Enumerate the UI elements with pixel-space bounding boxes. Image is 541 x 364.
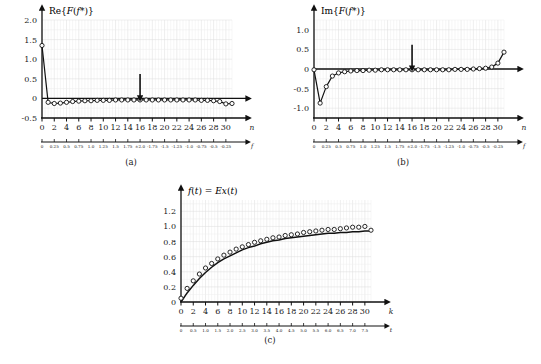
data-point-marker — [338, 227, 342, 231]
data-point-marker — [101, 98, 105, 102]
data-point-marker — [344, 226, 348, 230]
data-point-marker — [441, 68, 445, 72]
data-point-marker — [351, 225, 355, 229]
x-tick-label-secondary-a: -1.75 — [147, 144, 158, 149]
data-point-marker — [369, 228, 373, 232]
x-tick-label-primary-c: 20 — [298, 307, 308, 316]
panel-b: -1.0-0.500.51.0Im{F(f*)}0246810121416182… — [272, 2, 534, 174]
y-axis-title-c: f(t) = Ex(t) — [187, 186, 238, 196]
data-point-marker — [222, 253, 226, 257]
x-tick-label-secondary-b: -0.75 — [468, 144, 479, 149]
data-point-marker — [385, 68, 389, 72]
data-point-marker — [367, 68, 371, 72]
y-tick-label-b: 1.0 — [296, 26, 309, 35]
y-axis-title-a: Re{F(f*)} — [49, 6, 94, 16]
data-point-marker — [320, 228, 324, 232]
data-point-marker — [277, 235, 281, 239]
x-tick-label-primary-a: 2 — [52, 123, 57, 132]
data-point-marker — [46, 100, 50, 104]
x-tick-label-primary-c: 22 — [311, 307, 321, 316]
data-point-marker — [453, 67, 457, 71]
data-point-marker — [205, 98, 209, 102]
x-tick-label-primary-c: 14 — [262, 307, 272, 316]
x-tick-label-secondary-c: 7.0 — [349, 328, 356, 333]
data-point-marker — [187, 98, 191, 102]
grid-a — [42, 20, 232, 118]
x-axis-label-secondary-b: f — [522, 142, 527, 150]
x-tick-label-secondary-b: -1.25 — [444, 144, 455, 149]
x-tick-label-primary-c: 24 — [323, 307, 333, 316]
x-tick-label-primary-b: 8 — [360, 123, 365, 132]
data-point-marker — [324, 85, 328, 89]
x-tick-label-secondary-a: 0.75 — [74, 144, 84, 149]
x-tick-label-secondary-b: 0.25 — [322, 144, 332, 149]
data-point-marker — [230, 101, 234, 105]
x-tick-label-secondary-c: 0 — [180, 328, 183, 333]
data-point-marker — [83, 99, 87, 103]
data-point-marker — [126, 98, 130, 102]
x-tick-label-primary-b: 4 — [336, 123, 341, 132]
x-tick-label-primary-a: 12 — [110, 123, 120, 132]
x-tick-label-secondary-c: 3.0 — [251, 328, 258, 333]
data-point-marker — [289, 233, 293, 237]
data-point-marker — [191, 279, 195, 283]
x-tick-label-secondary-c: 0.5 — [190, 328, 197, 333]
y-tick-label-c: 0.6 — [163, 253, 176, 262]
x-tick-label-secondary-a: 0.5 — [63, 144, 70, 149]
x-tick-label-primary-b: 20 — [431, 123, 441, 132]
x-tick-label-primary-c: 8 — [227, 307, 232, 316]
x-tick-label-primary-b: 16 — [407, 123, 417, 132]
data-point-marker — [212, 99, 216, 103]
data-point-marker — [459, 67, 463, 71]
x-tick-label-primary-b: 22 — [444, 123, 454, 132]
data-point-marker — [357, 225, 361, 229]
y-tick-label-a: 1.5 — [24, 36, 37, 45]
data-point-marker — [179, 296, 183, 300]
chart-b-imaginary-part: -1.0-0.500.51.0Im{F(f*)}0246810121416182… — [272, 2, 534, 162]
data-point-marker — [428, 68, 432, 72]
x-tick-label-primary-c: 12 — [249, 307, 259, 316]
data-point-marker — [113, 98, 117, 102]
data-point-marker — [330, 74, 334, 78]
x-tick-label-primary-b: 0 — [311, 123, 316, 132]
x-tick-label-primary-b: 18 — [419, 123, 429, 132]
data-point-marker — [58, 101, 62, 105]
data-point-marker — [471, 67, 475, 71]
x-tick-label-primary-a: 10 — [98, 123, 108, 132]
data-point-marker — [210, 261, 214, 265]
data-point-marker — [224, 102, 228, 106]
data-point-marker — [162, 98, 166, 102]
x-tick-label-secondary-c: 5.0 — [300, 328, 307, 333]
data-point-marker — [185, 286, 189, 290]
x-tick-label-secondary-a: -0.25 — [221, 144, 232, 149]
data-point-marker — [361, 68, 365, 72]
data-point-marker — [308, 230, 312, 234]
x-tick-label-secondary-a: -0.75 — [196, 144, 207, 149]
x-tick-label-secondary-b: 0.5 — [335, 144, 342, 149]
data-point-marker — [349, 69, 353, 73]
x-tick-label-primary-c: 18 — [286, 307, 296, 316]
data-point-marker — [150, 98, 154, 102]
x-tick-label-secondary-a: 1.0 — [88, 144, 95, 149]
data-point-marker — [477, 67, 481, 71]
x-tick-label-secondary-c: 7.5 — [362, 328, 369, 333]
data-point-marker — [373, 68, 377, 72]
chart-c-time-signal: 00.20.40.60.81.01.2f(t) = Ex(t)024681012… — [139, 180, 401, 340]
x-tick-label-secondary-b: ±2.0 — [407, 144, 417, 149]
data-point-marker — [332, 227, 336, 231]
x-tick-label-primary-a: 0 — [39, 123, 44, 132]
x-tick-label-secondary-c: 1.5 — [215, 328, 222, 333]
x-tick-label-primary-c: 16 — [274, 307, 284, 316]
y-tick-label-c: 0.4 — [163, 268, 176, 277]
y-tick-label-a: 0.5 — [24, 75, 37, 84]
x-tick-label-secondary-c: 2.5 — [239, 328, 246, 333]
x-axis-label-primary-a: n — [250, 123, 255, 132]
data-point-marker — [502, 50, 506, 54]
x-tick-label-secondary-c: 5.5 — [313, 328, 320, 333]
data-point-marker — [234, 247, 238, 251]
y-tick-label-c: 0 — [171, 298, 176, 307]
x-axis-label-primary-b: n — [522, 123, 527, 132]
x-tick-label-primary-c: 10 — [237, 307, 247, 316]
data-point-marker — [271, 236, 275, 240]
x-tick-label-primary-a: 8 — [88, 123, 93, 132]
